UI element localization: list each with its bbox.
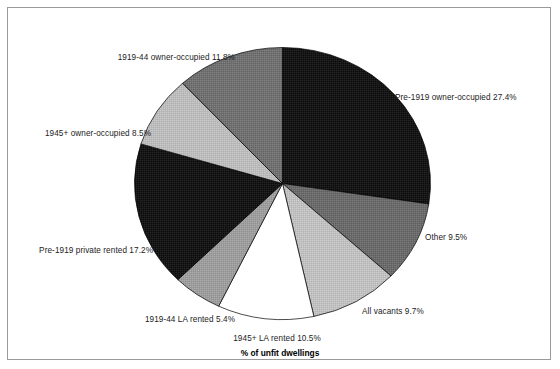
pie-label-pre1919-owner-occupied: Pre-1919 owner-occupied 27.4% <box>395 93 517 102</box>
pie-label-1945plus-la-rented: 1945+ LA rented 10.5% <box>177 334 377 343</box>
chart-axis-title: % of unfit dwellings <box>200 348 360 358</box>
pie-slice <box>283 48 431 204</box>
pie-label-1919-44-owner-occupied: 1919-44 owner-occupied 11.8% <box>0 53 235 62</box>
pie-slices-group <box>135 48 431 320</box>
pie-chart-plot-area: Pre-1919 owner-occupied 27.4% Other 9.5%… <box>0 0 560 369</box>
chart-figure: Pre-1919 owner-occupied 27.4% Other 9.5%… <box>0 0 560 369</box>
pie-label-1919-44-la-rented: 1919-44 LA rented 5.4% <box>0 315 235 324</box>
pie-label-pre1919-private-rented: Pre-1919 private rented 17.2% <box>0 246 153 255</box>
pie-label-1945plus-owner-occupied: 1945+ owner-occupied 8.5% <box>0 129 151 138</box>
pie-label-all-vacants: All vacants 9.7% <box>362 307 424 316</box>
pie-label-other: Other 9.5% <box>425 233 467 242</box>
